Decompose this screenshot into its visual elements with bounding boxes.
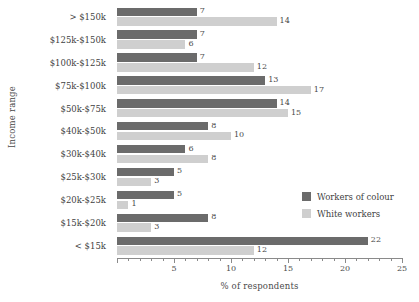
- bar-value-label: 7: [200, 53, 205, 61]
- x-axis-minor-tick: [322, 258, 323, 261]
- legend-label: Workers of colour: [317, 192, 394, 202]
- bar-group: 53: [117, 166, 402, 189]
- x-axis-major-tick: [231, 258, 232, 263]
- y-axis-tick-label: $20k-$25k: [0, 189, 112, 212]
- x-axis-minor-tick: [163, 258, 164, 261]
- bar: [117, 145, 185, 153]
- x-axis-minor-tick: [277, 258, 278, 261]
- bar-value-label: 1: [131, 200, 136, 208]
- legend-item: White workers: [302, 205, 394, 222]
- bar-group: 76: [117, 29, 402, 52]
- bar: [117, 201, 128, 209]
- legend-swatch-icon: [302, 209, 311, 218]
- x-axis-tick-label: 5: [171, 264, 176, 273]
- bar: [117, 132, 231, 140]
- x-axis-minor-tick: [265, 258, 266, 261]
- legend-swatch-icon: [302, 192, 311, 201]
- bar: [117, 237, 368, 245]
- bar-group: 1317: [117, 75, 402, 98]
- x-axis-minor-tick: [311, 258, 312, 261]
- bar: [117, 86, 311, 94]
- x-axis-minor-tick: [391, 258, 392, 261]
- bar: [117, 223, 151, 231]
- bar: [117, 40, 185, 48]
- bar-value-label: 5: [177, 167, 182, 175]
- x-axis-minor-tick: [128, 258, 129, 261]
- x-axis-minor-tick: [208, 258, 209, 261]
- bar-value-label: 13: [268, 76, 278, 84]
- legend-item: Workers of colour: [302, 188, 394, 205]
- bar: [117, 63, 254, 71]
- bar: [117, 155, 208, 163]
- bar-value-label: 14: [280, 99, 290, 107]
- bar: [117, 168, 174, 176]
- bar: [117, 8, 197, 16]
- bar-value-label: 17: [314, 86, 324, 94]
- legend: Workers of colourWhite workers: [302, 188, 394, 222]
- bar-value-label: 14: [280, 17, 290, 25]
- bar: [117, 178, 151, 186]
- bar-group: 810: [117, 120, 402, 143]
- y-axis-tick-label: $50k-$75k: [0, 98, 112, 121]
- x-axis-major-tick: [117, 258, 118, 263]
- x-axis-minor-tick: [379, 258, 380, 261]
- bar: [117, 17, 277, 25]
- bar: [117, 30, 197, 38]
- x-axis-minor-tick: [185, 258, 186, 261]
- x-axis-minor-tick: [334, 258, 335, 261]
- y-axis-tick-label: $15k-$20k: [0, 212, 112, 235]
- bar-group: 714: [117, 6, 402, 29]
- x-axis-minor-tick: [197, 258, 198, 261]
- bar-value-label: 6: [188, 40, 193, 48]
- bar-value-label: 3: [154, 223, 159, 231]
- bar: [117, 99, 277, 107]
- x-axis-line: [117, 258, 402, 259]
- bar-value-label: 12: [257, 246, 267, 254]
- bar-value-label: 3: [154, 177, 159, 185]
- y-axis-tick-label: $25k-$30k: [0, 166, 112, 189]
- bar-value-label: 5: [177, 190, 182, 198]
- y-axis-tick-label: < $15k: [0, 235, 112, 258]
- bar-value-label: 8: [211, 122, 216, 130]
- x-axis-minor-tick: [151, 258, 152, 261]
- x-axis-title: % of respondents: [117, 281, 402, 291]
- bar: [117, 214, 208, 222]
- x-axis-minor-tick: [140, 258, 141, 261]
- bar-value-label: 10: [234, 131, 244, 139]
- bar-value-label: 6: [188, 145, 193, 153]
- x-axis-minor-tick: [220, 258, 221, 261]
- x-axis-minor-tick: [299, 258, 300, 261]
- bar-value-label: 22: [371, 236, 381, 244]
- y-axis-tick-label: $40k-$50k: [0, 120, 112, 143]
- bar: [117, 53, 197, 61]
- y-axis-tick-label: > $150k: [0, 6, 112, 29]
- bar-value-label: 12: [257, 63, 267, 71]
- x-axis-major-tick: [402, 258, 403, 263]
- x-axis-major-tick: [345, 258, 346, 263]
- x-axis-major-tick: [174, 258, 175, 263]
- bar-value-label: 8: [211, 154, 216, 162]
- bar-value-label: 7: [200, 30, 205, 38]
- bar-value-label: 15: [291, 109, 301, 117]
- x-axis-minor-tick: [242, 258, 243, 261]
- bar: [117, 109, 288, 117]
- x-axis-minor-tick: [356, 258, 357, 261]
- bar: [117, 191, 174, 199]
- bar: [117, 76, 265, 84]
- y-axis-tick-labels: > $150k$125k-$150k$100k-$125k$75k-$100k$…: [0, 6, 112, 258]
- legend-label: White workers: [317, 209, 380, 219]
- x-axis-tick-label: 20: [340, 264, 350, 273]
- x-axis-tick-label: 10: [226, 264, 236, 273]
- bar-value-label: 8: [211, 213, 216, 221]
- bar-group: 712: [117, 52, 402, 75]
- bar-chart: Income range % of respondents > $150k$12…: [0, 0, 419, 302]
- bar: [117, 246, 254, 254]
- y-axis-tick-label: $30k-$40k: [0, 143, 112, 166]
- x-axis-tick-label: 15: [283, 264, 293, 273]
- bar: [117, 122, 208, 130]
- x-axis-major-tick: [288, 258, 289, 263]
- bar-group: 2212: [117, 235, 402, 258]
- x-axis-minor-tick: [254, 258, 255, 261]
- y-axis-tick-label: $125k-$150k: [0, 29, 112, 52]
- bar-group: 1415: [117, 98, 402, 121]
